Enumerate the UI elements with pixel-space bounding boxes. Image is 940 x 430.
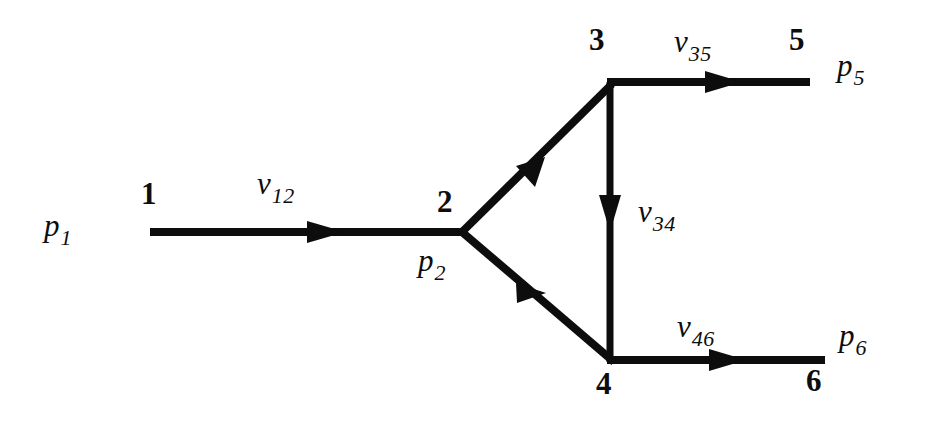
flow-label-v34: v34 xyxy=(638,196,675,227)
pressure-label-p2: p2 xyxy=(418,245,445,276)
flow-label-v12: v12 xyxy=(257,168,294,199)
node-label-1: 1 xyxy=(141,178,157,209)
pressure-label-p1: p1 xyxy=(44,210,71,241)
pressure-label-p6-base: p xyxy=(839,318,855,353)
flow-label-v12-subscript: 12 xyxy=(272,183,295,208)
flow-label-v12-base: v xyxy=(257,166,271,201)
pressure-label-p6-subscript: 6 xyxy=(856,335,867,360)
pressure-label-p5: p5 xyxy=(837,50,864,81)
edge-2-to-3-line xyxy=(462,84,612,232)
flow-label-v35: v35 xyxy=(674,26,711,57)
flow-label-v46-base: v xyxy=(677,309,691,344)
edge-3-to-5-arrowhead xyxy=(705,71,742,93)
pipeline-network-diagram: p1 1 v12 2 p2 3 v35 5 p5 v34 v46 p6 4 6 xyxy=(0,0,940,430)
flow-label-v34-subscript: 34 xyxy=(653,211,676,236)
pressure-label-p5-base: p xyxy=(837,48,853,83)
flow-label-v35-subscript: 35 xyxy=(689,41,712,66)
node-label-2: 2 xyxy=(437,186,453,217)
pressure-label-p2-base: p xyxy=(418,243,434,278)
node-label-6: 6 xyxy=(806,365,822,396)
flow-label-v34-base: v xyxy=(638,194,652,229)
edge-3-to-4-arrowhead xyxy=(599,195,621,232)
edge-4-to-6-arrowhead xyxy=(709,349,746,371)
pressure-label-p2-subscript: 2 xyxy=(435,260,446,285)
node-label-4: 4 xyxy=(596,368,612,399)
pressure-label-p6: p6 xyxy=(839,320,866,351)
pressure-label-p1-subscript: 1 xyxy=(61,225,72,250)
pressure-label-p5-subscript: 5 xyxy=(854,65,865,90)
node-label-5: 5 xyxy=(789,24,805,55)
network-graph-canvas xyxy=(0,0,940,430)
pressure-label-p1-base: p xyxy=(44,208,60,243)
flow-label-v46: v46 xyxy=(677,311,714,342)
flow-label-v46-subscript: 46 xyxy=(692,326,715,351)
node-label-3: 3 xyxy=(589,24,605,55)
edge-1-to-2-arrowhead xyxy=(307,221,345,243)
edge-2-to-4-line xyxy=(462,232,614,362)
flow-label-v35-base: v xyxy=(674,24,688,59)
